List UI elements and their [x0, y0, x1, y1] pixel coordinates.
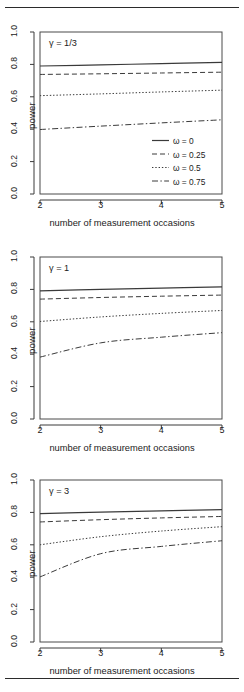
x-axis-tick-label: 5: [212, 200, 232, 210]
x-axis-tick-label: 4: [151, 425, 171, 435]
x-axis-tick-label: 3: [91, 200, 111, 210]
y-axis-tick-label: 0.6: [9, 529, 19, 559]
data-series-line: [40, 541, 222, 577]
chart-panel-gamma-one-third: 0.00.20.40.60.81.02345powernumber of mea…: [0, 18, 244, 236]
y-axis-tick-label: 0.4: [9, 113, 19, 143]
legend-item-label: ω = 0.75: [173, 177, 205, 187]
y-axis-tick-label: 1.0: [9, 16, 19, 46]
y-axis-tick-label: 0.4: [9, 338, 19, 368]
x-axis-tick-label: 4: [151, 648, 171, 658]
data-series-line: [40, 510, 222, 514]
y-axis-tick-label: 0.0: [9, 178, 19, 208]
panel-gamma-label: γ = 1: [49, 263, 69, 273]
chart-panel-gamma-3: 0.00.20.40.60.81.02345powernumber of mea…: [0, 466, 244, 684]
y-axis-tick-label: 1.0: [9, 241, 19, 271]
plot-frame: [40, 480, 222, 642]
y-axis-tick-label: 0.2: [9, 594, 19, 624]
y-axis-label: power: [26, 535, 37, 593]
y-axis-tick-label: 0.2: [9, 146, 19, 176]
legend-item-label: ω = 0: [173, 136, 194, 146]
data-series-line: [40, 90, 222, 96]
data-series-line: [40, 72, 222, 74]
legend-item-label: ω = 0.25: [173, 150, 205, 160]
y-axis-tick-label: 0.6: [9, 306, 19, 336]
data-series-line: [40, 310, 222, 321]
x-axis-label: number of measurement occasions: [0, 443, 244, 453]
data-series-line: [40, 333, 222, 357]
data-series-line: [40, 287, 222, 291]
panel-gamma-label: γ = 1/3: [49, 38, 77, 48]
data-series-line: [40, 295, 222, 299]
x-axis-label: number of measurement occasions: [0, 666, 244, 676]
x-axis-tick-label: 3: [91, 648, 111, 658]
x-axis-tick-label: 5: [212, 425, 232, 435]
y-axis-tick-label: 1.0: [9, 464, 19, 494]
x-axis-label: number of measurement occasions: [0, 218, 244, 228]
data-series-line: [40, 120, 222, 130]
y-axis-label: power: [26, 312, 37, 370]
y-axis-tick-label: 0.8: [9, 273, 19, 303]
y-axis-tick-label: 0.8: [9, 48, 19, 78]
x-axis-tick-label: 2: [30, 425, 50, 435]
page-rule-top: [5, 7, 239, 8]
x-axis-tick-label: 3: [91, 425, 111, 435]
x-axis-tick-label: 5: [212, 648, 232, 658]
x-axis-tick-label: 2: [30, 648, 50, 658]
data-series-line: [40, 62, 222, 66]
panel-gamma-label: γ = 3: [49, 486, 69, 496]
data-series-line: [40, 516, 222, 522]
x-axis-tick-label: 2: [30, 200, 50, 210]
y-axis-tick-label: 0.0: [9, 626, 19, 656]
y-axis-label: power: [26, 87, 37, 145]
chart-panel-gamma-1: 0.00.20.40.60.81.02345powernumber of mea…: [0, 243, 244, 461]
legend-item-label: ω = 0.5: [173, 163, 201, 173]
y-axis-tick-label: 0.4: [9, 561, 19, 591]
y-axis-tick-label: 0.6: [9, 81, 19, 111]
plot-frame: [40, 257, 222, 419]
data-series-line: [40, 527, 222, 545]
x-axis-tick-label: 4: [151, 200, 171, 210]
y-axis-tick-label: 0.0: [9, 403, 19, 433]
y-axis-tick-label: 0.2: [9, 371, 19, 401]
y-axis-tick-label: 0.8: [9, 496, 19, 526]
